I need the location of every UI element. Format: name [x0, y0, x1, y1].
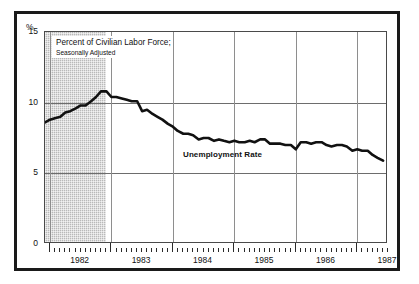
x-axis-major-tick	[295, 243, 296, 252]
x-axis-minor-tick	[259, 248, 260, 253]
callout-line-1: Percent of Civilian Labor Force;	[56, 38, 165, 48]
x-axis-minor-tick	[126, 248, 127, 253]
x-axis-minor-tick	[382, 248, 383, 253]
x-axis-minor-tick	[361, 248, 362, 253]
x-axis-minor-tick	[177, 248, 178, 253]
x-axis-minor-tick	[254, 248, 255, 253]
x-axis-tick-label: 1984	[180, 256, 226, 265]
x-axis-tick-label: 1982	[57, 256, 103, 265]
x-axis-minor-tick	[249, 248, 250, 253]
x-axis-minor-tick	[75, 248, 76, 253]
x-axis-minor-tick	[279, 248, 280, 253]
x-axis-minor-tick	[90, 248, 91, 253]
x-axis-minor-tick	[223, 248, 224, 253]
x-axis-tick-label: 1985	[241, 256, 287, 265]
x-axis-minor-tick	[326, 248, 327, 253]
x-axis-minor-tick	[69, 248, 70, 253]
x-axis-minor-tick	[156, 248, 157, 253]
x-axis-minor-tick	[228, 248, 229, 253]
x-axis-minor-tick	[54, 248, 55, 253]
unemployment-rate-line	[45, 32, 387, 243]
x-axis-minor-tick	[320, 248, 321, 253]
series-annotation-label: Unemployment Rate	[183, 150, 262, 159]
x-axis-minor-tick	[85, 248, 86, 253]
chart-callout-box: Percent of Civilian Labor Force; Seasona…	[52, 36, 168, 58]
x-axis-minor-tick	[351, 248, 352, 253]
x-axis-minor-tick	[187, 248, 188, 253]
x-axis-minor-tick	[264, 248, 265, 253]
callout-line-2: Seasonally Adjusted	[56, 48, 165, 57]
x-axis-minor-tick	[213, 248, 214, 253]
x-axis-minor-tick	[203, 248, 204, 253]
x-axis-minor-tick	[269, 248, 270, 253]
y-axis-tick-label: 10	[20, 98, 38, 107]
x-axis-minor-tick	[64, 248, 65, 253]
x-axis-minor-tick	[208, 248, 209, 253]
x-axis-minor-tick	[377, 248, 378, 253]
x-axis-major-tick	[233, 243, 234, 252]
x-axis-minor-tick	[290, 248, 291, 253]
x-axis-major-tick	[110, 243, 111, 252]
x-axis-minor-tick	[372, 248, 373, 253]
x-axis-minor-tick	[131, 248, 132, 253]
x-axis-minor-tick	[136, 248, 137, 253]
y-axis-tick-label: 0	[20, 239, 38, 248]
x-axis-tick-label: 1986	[303, 256, 349, 265]
x-axis-minor-tick	[59, 248, 60, 253]
x-axis-minor-tick	[105, 248, 106, 253]
x-axis-minor-tick	[197, 248, 198, 253]
x-axis-tick-label: 1987	[364, 256, 410, 265]
unemployment-rate-figure: % 051015 Percent of Civilian Labor Force…	[0, 0, 419, 284]
x-axis-major-tick	[49, 243, 50, 252]
x-axis-minor-tick	[146, 248, 147, 253]
x-axis-minor-tick	[336, 248, 337, 253]
x-axis-minor-tick	[285, 248, 286, 253]
x-axis-minor-tick	[305, 248, 306, 253]
x-axis-minor-tick	[331, 248, 332, 253]
x-axis-major-tick	[356, 243, 357, 252]
x-axis-minor-tick	[218, 248, 219, 253]
plot-area	[44, 31, 387, 243]
x-axis-minor-tick	[95, 248, 96, 253]
x-axis-minor-tick	[367, 248, 368, 253]
x-axis-minor-tick	[274, 248, 275, 253]
y-axis-tick-label: 15	[20, 27, 38, 36]
x-axis-minor-tick	[244, 248, 245, 253]
x-axis-minor-tick	[387, 248, 388, 253]
x-axis-minor-tick	[346, 248, 347, 253]
x-axis-ticks	[44, 243, 387, 252]
x-axis-minor-tick	[167, 248, 168, 253]
x-axis-minor-tick	[121, 248, 122, 253]
x-axis-minor-tick	[192, 248, 193, 253]
x-axis-minor-tick	[141, 248, 142, 253]
x-axis-minor-tick	[315, 248, 316, 253]
x-axis-minor-tick	[80, 248, 81, 253]
x-axis-minor-tick	[341, 248, 342, 253]
x-axis-minor-tick	[100, 248, 101, 253]
x-axis-minor-tick	[182, 248, 183, 253]
x-axis-minor-tick	[116, 248, 117, 253]
x-axis-minor-tick	[238, 248, 239, 253]
y-axis-tick-label: 5	[20, 168, 38, 177]
x-axis-tick-label: 1983	[118, 256, 164, 265]
x-axis-minor-tick	[151, 248, 152, 253]
x-axis-minor-tick	[310, 248, 311, 253]
x-axis-major-tick	[172, 243, 173, 252]
x-axis-minor-tick	[300, 248, 301, 253]
x-axis-minor-tick	[162, 248, 163, 253]
